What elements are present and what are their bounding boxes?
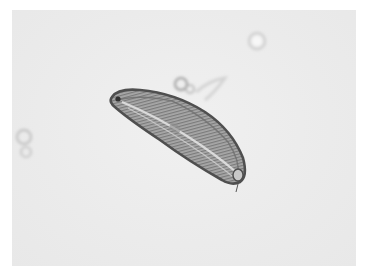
debris-center (175, 78, 225, 100)
bubble-top-right (249, 33, 265, 49)
diatom-cell (111, 90, 245, 192)
micrograph (0, 0, 367, 279)
debris-left (17, 130, 31, 157)
